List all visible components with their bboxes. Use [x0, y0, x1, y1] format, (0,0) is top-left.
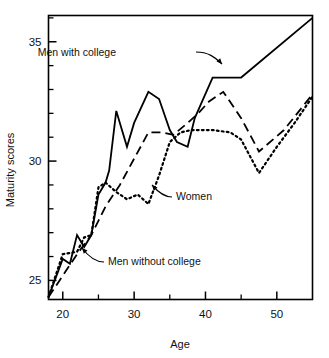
y-tick-label: 25 — [29, 274, 42, 286]
annotation-label: Men with college — [38, 46, 116, 58]
annotation-label: Men without college — [108, 255, 201, 267]
maturity-scores-line-chart: 20304050253035 Men with collegeWomenMen … — [0, 0, 329, 358]
x-tick-label: 30 — [128, 308, 141, 320]
x-tick-label: 20 — [56, 308, 69, 320]
x-axis-label: Age — [170, 338, 190, 350]
chart-figure: 20304050253035 Men with collegeWomenMen … — [0, 0, 329, 358]
y-tick-label: 30 — [29, 155, 42, 167]
x-tick-label: 40 — [199, 308, 212, 320]
annotation-label: Women — [176, 190, 212, 202]
y-axis-label: Maturity scores — [4, 132, 16, 207]
x-tick-label: 50 — [270, 308, 283, 320]
